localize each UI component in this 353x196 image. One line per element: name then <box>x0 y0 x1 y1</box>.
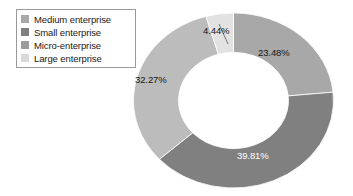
legend-swatch-icon <box>21 54 29 62</box>
pie-slice[interactable] <box>133 16 218 159</box>
pie-slice[interactable] <box>159 92 333 188</box>
legend-item-label: Micro-enterprise <box>34 40 101 51</box>
legend-item-label: Large enterprise <box>34 53 102 64</box>
value-label-medium-enterprise: 23.48% <box>258 47 290 58</box>
donut-chart-figure: 23.48% 39.81% 32.27% 4.44% Medium enterp… <box>0 0 353 196</box>
legend-item[interactable]: Medium enterprise <box>20 13 131 25</box>
legend-item[interactable]: Large enterprise <box>20 52 131 64</box>
legend-item-label: Small enterprise <box>34 27 101 38</box>
legend-item[interactable]: Micro-enterprise <box>20 39 131 51</box>
value-label-large-enterprise: 4.44% <box>203 25 229 36</box>
value-label-small-enterprise: 39.81% <box>237 150 269 161</box>
legend-swatch-icon <box>21 15 29 23</box>
legend-swatch-icon <box>21 28 29 36</box>
legend-swatch-icon <box>21 41 29 49</box>
legend: Medium enterpriseSmall enterpriseMicro-e… <box>16 9 136 68</box>
legend-item-label: Medium enterprise <box>34 14 111 25</box>
wedge-group <box>133 13 333 188</box>
value-label-micro-enterprise: 32.27% <box>135 74 167 85</box>
legend-item[interactable]: Small enterprise <box>20 26 131 38</box>
